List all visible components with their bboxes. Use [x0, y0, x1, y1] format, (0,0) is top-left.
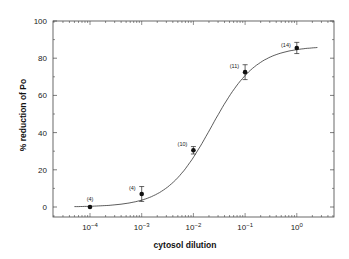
fit-curve	[74, 48, 317, 207]
x-axis-ticks: 10−410−310−210−1100	[54, 21, 333, 232]
y-axis-label: % reduction of Po	[18, 79, 28, 151]
data-point: (4)	[129, 185, 144, 201]
y-tick-label: 100	[34, 17, 48, 26]
data-point: (10)	[178, 141, 196, 154]
data-points: (4)(4)(10)(11)(14)	[87, 42, 300, 209]
n-label: (11)	[230, 63, 240, 69]
x-tick-label: 10−2	[186, 222, 202, 232]
n-label: (4)	[87, 196, 94, 202]
n-label: (10)	[178, 141, 188, 147]
n-label: (4)	[129, 185, 136, 191]
y-tick-label: 80	[38, 54, 47, 63]
x-tick-label: 10−1	[237, 222, 253, 232]
n-label: (14)	[281, 42, 291, 48]
data-point: (4)	[87, 196, 94, 209]
dose-response-chart: 020406080100 10−410−310−210−1100 (4)(4)(…	[0, 0, 349, 259]
data-point: (11)	[230, 63, 248, 79]
x-tick-label: 100	[291, 222, 304, 232]
y-tick-label: 0	[43, 203, 48, 212]
x-tick-label: 10−3	[134, 222, 150, 232]
data-point: (14)	[281, 42, 299, 54]
x-tick-label: 10−4	[82, 222, 98, 232]
y-tick-label: 20	[38, 166, 47, 175]
y-tick-label: 60	[38, 91, 47, 100]
y-tick-label: 40	[38, 129, 47, 138]
x-axis-label: cytosol dilution	[154, 240, 217, 250]
